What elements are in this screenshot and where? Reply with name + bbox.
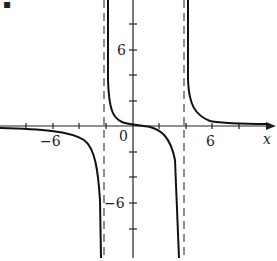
graph-canvas bbox=[0, 0, 277, 261]
x-tick-label-0: 0 bbox=[119, 129, 128, 143]
x-tick-label-neg6: −6 bbox=[40, 134, 61, 148]
y-tick-label-neg6: −6 bbox=[104, 196, 125, 210]
y-tick-label-6: 6 bbox=[117, 43, 126, 57]
x-axis-label: x bbox=[263, 132, 271, 146]
bullet-marker: ▪ bbox=[3, 0, 11, 10]
curve-right-branch bbox=[188, 0, 268, 124]
x-tick-label-6: 6 bbox=[206, 134, 215, 148]
